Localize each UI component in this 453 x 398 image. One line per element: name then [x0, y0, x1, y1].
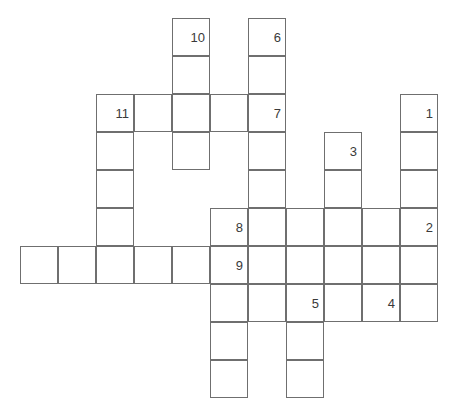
- crossword-cell-numbered-9[interactable]: 9: [210, 246, 248, 284]
- crossword-cell[interactable]: [248, 132, 286, 170]
- crossword-cell[interactable]: [210, 94, 248, 132]
- crossword-cell-numbered-11[interactable]: 11: [96, 94, 134, 132]
- clue-number-1: 1: [426, 107, 433, 120]
- crossword-cell[interactable]: [286, 322, 324, 360]
- clue-number-8: 8: [236, 221, 243, 234]
- crossword-cell-numbered-6[interactable]: 6: [248, 18, 286, 56]
- crossword-cell[interactable]: [248, 56, 286, 94]
- crossword-cell[interactable]: [96, 208, 134, 246]
- crossword-cell[interactable]: [286, 360, 324, 398]
- crossword-cell-numbered-8[interactable]: 8: [210, 208, 248, 246]
- crossword-cell[interactable]: [286, 246, 324, 284]
- crossword-cell[interactable]: [324, 284, 362, 322]
- crossword-cell-numbered-10[interactable]: 10: [172, 18, 210, 56]
- crossword-cell[interactable]: [172, 246, 210, 284]
- clue-number-3: 3: [350, 145, 357, 158]
- clue-number-10: 10: [191, 31, 205, 44]
- crossword-cell-numbered-5[interactable]: 5: [286, 284, 324, 322]
- crossword-cell[interactable]: [58, 246, 96, 284]
- clue-number-4: 4: [388, 297, 395, 310]
- crossword-cell[interactable]: [324, 246, 362, 284]
- crossword-cell[interactable]: [400, 170, 438, 208]
- crossword-cell[interactable]: [134, 94, 172, 132]
- crossword-cell[interactable]: [248, 170, 286, 208]
- crossword-cell[interactable]: [248, 246, 286, 284]
- crossword-cell[interactable]: [324, 170, 362, 208]
- crossword-cell-numbered-1[interactable]: 1: [400, 94, 438, 132]
- crossword-cell-numbered-4[interactable]: 4: [362, 284, 400, 322]
- crossword-cell[interactable]: [134, 246, 172, 284]
- crossword-cell[interactable]: [400, 132, 438, 170]
- crossword-cell[interactable]: [248, 208, 286, 246]
- clue-number-5: 5: [312, 297, 319, 310]
- crossword-cell[interactable]: [172, 56, 210, 94]
- crossword-cell[interactable]: [20, 246, 58, 284]
- crossword-cell[interactable]: [210, 322, 248, 360]
- clue-number-7: 7: [274, 107, 281, 120]
- crossword-cell[interactable]: [324, 208, 362, 246]
- crossword-cell[interactable]: [172, 132, 210, 170]
- crossword-cell[interactable]: [400, 284, 438, 322]
- clue-number-11: 11: [116, 107, 130, 120]
- crossword-cell[interactable]: [210, 284, 248, 322]
- crossword-cell-numbered-2[interactable]: 2: [400, 208, 438, 246]
- crossword-cell[interactable]: [400, 246, 438, 284]
- crossword-cell[interactable]: [172, 94, 210, 132]
- crossword-cell[interactable]: [362, 208, 400, 246]
- crossword-cell[interactable]: [248, 284, 286, 322]
- crossword-cell[interactable]: [210, 360, 248, 398]
- crossword-cell[interactable]: [96, 246, 134, 284]
- clue-number-9: 9: [236, 259, 243, 272]
- crossword-cell-numbered-3[interactable]: 3: [324, 132, 362, 170]
- crossword-cell[interactable]: [96, 170, 134, 208]
- crossword-cell[interactable]: [362, 246, 400, 284]
- crossword-cell[interactable]: [286, 208, 324, 246]
- clue-number-2: 2: [426, 221, 433, 234]
- crossword-cell-numbered-7[interactable]: 7: [248, 94, 286, 132]
- crossword-cell[interactable]: [96, 132, 134, 170]
- clue-number-6: 6: [274, 31, 281, 44]
